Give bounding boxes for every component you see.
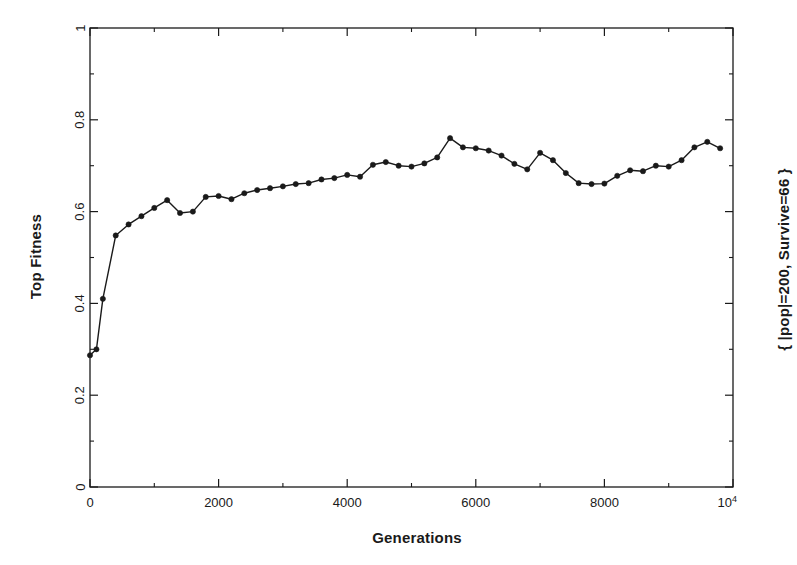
parameters-annotation: { |pop|=200, Survive=66 } xyxy=(775,145,792,375)
data-point-marker xyxy=(370,162,375,167)
data-point-marker xyxy=(242,191,247,196)
data-point-marker xyxy=(460,145,465,150)
y-tick-label: 0.2 xyxy=(73,386,88,404)
data-point-marker xyxy=(280,184,285,189)
data-point-marker xyxy=(113,233,118,238)
data-point-marker xyxy=(679,158,684,163)
data-point-marker xyxy=(666,164,671,169)
x-tick-label: 4000 xyxy=(333,495,362,510)
x-tick-label: 8000 xyxy=(590,495,619,510)
data-point-marker xyxy=(229,197,234,202)
x-tick-label: 6000 xyxy=(461,495,490,510)
y-tick-label: 0.4 xyxy=(73,294,88,312)
data-series-top-fitness xyxy=(87,136,722,358)
data-point-marker xyxy=(267,186,272,191)
data-point-marker xyxy=(216,193,221,198)
axes-frame xyxy=(90,28,733,487)
plot-area-svg: 00.20.40.60.8102000400060008000104 xyxy=(0,0,797,565)
x-axis-label: Generations xyxy=(297,529,537,546)
data-point-marker xyxy=(653,163,658,168)
data-point-marker xyxy=(409,164,414,169)
data-point-marker xyxy=(447,136,452,141)
data-point-marker xyxy=(525,167,530,172)
data-point-marker xyxy=(718,146,723,151)
data-point-marker xyxy=(255,187,260,192)
y-axis-label: Top Fitness xyxy=(27,197,44,317)
data-point-marker xyxy=(615,173,620,178)
data-point-marker xyxy=(589,181,594,186)
y-tick-label: 0 xyxy=(73,483,88,490)
x-tick-label: 2000 xyxy=(204,495,233,510)
y-tick-label: 1 xyxy=(73,24,88,31)
data-point-marker xyxy=(628,168,633,173)
data-point-marker xyxy=(640,169,645,174)
data-point-marker xyxy=(293,181,298,186)
data-point-marker xyxy=(422,161,427,166)
data-point-marker xyxy=(538,150,543,155)
data-point-marker xyxy=(396,163,401,168)
data-point-marker xyxy=(692,145,697,150)
axis-ticks xyxy=(90,28,733,487)
x-tick-label: 104 xyxy=(718,494,737,510)
y-tick-label: 0.6 xyxy=(73,203,88,221)
data-point-marker xyxy=(100,296,105,301)
data-point-marker xyxy=(512,161,517,166)
data-point-marker xyxy=(126,222,131,227)
data-point-marker xyxy=(576,181,581,186)
figure-canvas: 00.20.40.60.8102000400060008000104 Top F… xyxy=(0,0,797,565)
data-point-marker xyxy=(435,155,440,160)
data-point-marker xyxy=(383,159,388,164)
data-point-marker xyxy=(139,214,144,219)
x-tick-label: 0 xyxy=(86,495,93,510)
data-point-marker xyxy=(94,347,99,352)
data-point-marker xyxy=(345,172,350,177)
data-point-marker xyxy=(319,177,324,182)
data-point-marker xyxy=(203,194,208,199)
data-point-marker xyxy=(705,139,710,144)
data-point-marker xyxy=(190,209,195,214)
data-point-marker xyxy=(306,181,311,186)
data-point-marker xyxy=(602,181,607,186)
data-point-marker xyxy=(499,153,504,158)
data-point-marker xyxy=(332,175,337,180)
data-point-marker xyxy=(473,146,478,151)
data-point-marker xyxy=(357,174,362,179)
data-point-marker xyxy=(550,158,555,163)
data-point-marker xyxy=(152,205,157,210)
data-point-marker xyxy=(165,198,170,203)
data-point-marker xyxy=(563,170,568,175)
data-point-marker xyxy=(486,148,491,153)
axis-tick-labels: 00.20.40.60.8102000400060008000104 xyxy=(73,24,738,510)
data-point-marker xyxy=(177,210,182,215)
y-tick-label: 0.8 xyxy=(73,111,88,129)
data-point-marker xyxy=(87,353,92,358)
